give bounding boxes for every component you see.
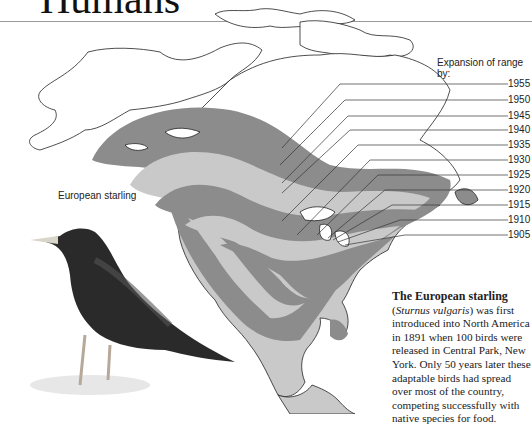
legend-year: 1940 <box>508 124 530 135</box>
caption-heading: The European starling <box>392 290 532 304</box>
legend-year: 1915 <box>508 199 530 210</box>
legend-year: 1920 <box>508 184 530 195</box>
scientific-name: Sturnus vulgaris <box>396 304 470 316</box>
legend-year: 1955 <box>508 78 530 89</box>
caption-body: introduced into North America in 1891 wh… <box>392 317 532 426</box>
legend-year: 1930 <box>508 154 530 165</box>
caption-line-2: (Sturnus vulgaris) was first <box>392 304 532 318</box>
legend-title: Expansion of range by: <box>437 57 532 79</box>
legend-year: 1935 <box>508 139 530 150</box>
legend-year: 1950 <box>508 94 530 105</box>
bird-label: European starling <box>58 190 136 201</box>
legend-year: 1910 <box>508 214 530 225</box>
legend-year: 1925 <box>508 169 530 180</box>
legend-year: 1945 <box>508 110 530 121</box>
legend-year: 1905 <box>508 229 530 240</box>
caption: The European starling (Sturnus vulgaris)… <box>392 290 532 426</box>
